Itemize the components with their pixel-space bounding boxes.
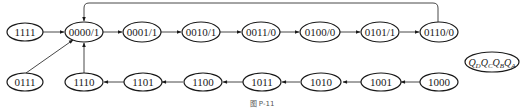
state-node-0011: 0011/0: [242, 22, 280, 42]
state-node-0110: 0110/0: [420, 22, 458, 42]
legend-state-order: QDQCQBQA: [465, 52, 519, 72]
state-node-1011: 1011: [243, 73, 281, 91]
state-node-0100: 0100/0: [300, 22, 340, 42]
figure-caption: 图 P-11: [250, 100, 275, 108]
edges: [26, 3, 438, 82]
state-label: 1000: [428, 76, 451, 88]
state-label: 0000/1: [69, 26, 100, 38]
state-node-1000: 1000: [420, 73, 458, 91]
state-label: 1010: [310, 76, 333, 88]
state-label: 0111: [14, 76, 35, 88]
state-node-1111: 1111: [7, 23, 43, 41]
state-label: 0110/0: [424, 26, 455, 38]
state-label: 1001: [370, 76, 392, 88]
state-node-1001: 1001: [361, 73, 401, 91]
state-label: 0100/0: [305, 26, 336, 38]
state-node-0000: 0000/1: [65, 22, 103, 42]
state-label: 1110: [73, 76, 95, 88]
state-node-0001: 0001/1: [123, 22, 161, 42]
state-node-1110: 1110: [65, 73, 103, 91]
state-label: 0011/0: [246, 26, 277, 38]
state-node-1010: 1010: [301, 73, 341, 91]
state-node-0010: 0010/1: [182, 22, 220, 42]
state-label: 0001/1: [127, 26, 158, 38]
state-node-1100: 1100: [184, 73, 222, 91]
edge-0110-0000: [84, 3, 438, 22]
state-label: 1101: [132, 76, 154, 88]
edge-0111-0000: [26, 40, 73, 73]
state-node-0101: 0101/1: [361, 22, 399, 42]
state-label: 1100: [192, 76, 214, 88]
state-diagram: 1111 0000/1 0001/1 0010/1 0011/0 0100/0 …: [0, 0, 524, 112]
state-node-0111: 0111: [7, 73, 43, 91]
state-label: 1111: [15, 26, 36, 38]
state-label: 0101/1: [365, 26, 396, 38]
state-label: 0010/1: [186, 26, 217, 38]
state-node-1101: 1101: [124, 73, 162, 91]
state-label: 1011: [251, 76, 273, 88]
